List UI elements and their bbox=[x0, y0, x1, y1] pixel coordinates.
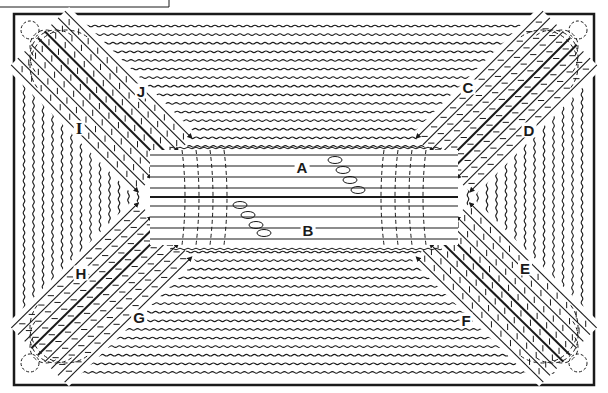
label-f: F bbox=[459, 313, 472, 328]
label-c: C bbox=[461, 80, 476, 95]
label-d: D bbox=[522, 123, 537, 138]
caption-box-partial bbox=[0, 0, 169, 7]
label-j: J bbox=[135, 84, 147, 99]
diagram-figure: A B C D E F G H I J bbox=[0, 0, 608, 393]
label-a: A bbox=[295, 160, 310, 175]
label-b: B bbox=[301, 223, 316, 238]
label-g: G bbox=[131, 310, 147, 325]
label-h: H bbox=[74, 266, 89, 281]
flow-diagram-drawing bbox=[0, 0, 608, 393]
label-e: E bbox=[518, 261, 532, 276]
label-i: I bbox=[74, 121, 85, 136]
